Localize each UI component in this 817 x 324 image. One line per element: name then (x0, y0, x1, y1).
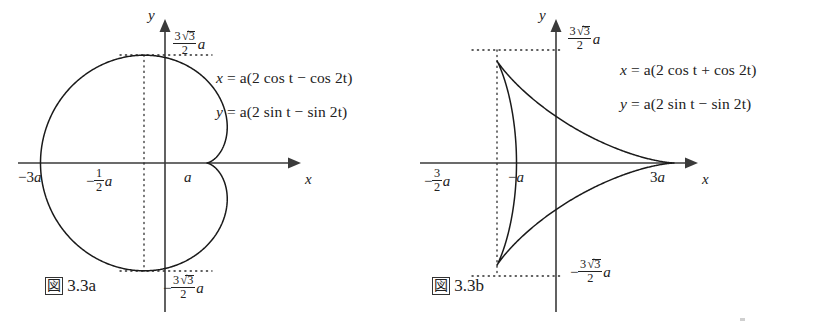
figure-panel-cardioid: x y −3a −12 a a 3√32 a −3√32 a x = a(2 c… (0, 0, 410, 324)
tick-label-x-cusp-right: 3a (650, 170, 665, 185)
caption-kanji-icon: 図 (45, 277, 63, 295)
equation-y: y = a(2 sin t − sin 2t) (216, 104, 347, 120)
x-axis-label: x (305, 172, 312, 187)
caption-number: 3.3b (454, 276, 484, 295)
tick-label-y-min: −3√32 a (163, 274, 204, 301)
axes-group-a (18, 19, 301, 312)
figure-caption-b: 図 3.3b (432, 277, 484, 296)
equation-x: x = a(2 cos t + cos 2t) (620, 62, 756, 78)
tick-label-y-max: 3√32 a (173, 30, 205, 57)
y-axis-arrowhead (160, 19, 171, 32)
caption-kanji-icon: 図 (432, 277, 450, 295)
figure-caption-a: 図 3.3a (45, 277, 96, 296)
figure-root: x y −3a −12 a a 3√32 a −3√32 a x = a(2 c… (0, 0, 817, 324)
figure-panel-deltoid: x y −32 a −a 3a 3√32 a −3√32 a x = a(2 c… (410, 0, 817, 324)
tick-label-x-cusp: a (184, 170, 192, 185)
scan-artifact (740, 318, 745, 321)
tick-label-x-cusp-left: −32 a (424, 167, 450, 194)
equation-y: y = a(2 sin t − sin 2t) (620, 96, 751, 112)
tick-label-x-half: −12 a (86, 167, 112, 194)
tick-label-y-max: 3√32 a (568, 25, 600, 52)
tick-label-x-neg-a: −a (508, 170, 524, 185)
y-axis-label: y (539, 8, 546, 23)
equation-x: x = a(2 cos t − cos 2t) (216, 70, 352, 86)
tick-label-y-min: −3√32 a (570, 258, 611, 285)
x-axis-arrowhead (288, 158, 301, 169)
caption-number: 3.3a (67, 276, 96, 295)
y-axis-arrowhead (551, 19, 562, 32)
x-axis-arrowhead (685, 158, 698, 169)
x-axis-label: x (702, 172, 709, 187)
tick-label-x-min: −3a (18, 170, 41, 185)
y-axis-label: y (148, 8, 155, 23)
